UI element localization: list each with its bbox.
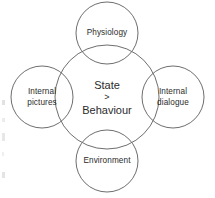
diagram-shapes: [0, 0, 215, 198]
node-circle-environment: [76, 130, 138, 192]
node-circle-internal-pictures: [11, 66, 73, 128]
node-circle-physiology: [76, 2, 138, 64]
node-circle-internal-dialogue: [142, 66, 204, 128]
diagram-canvas: State > Behaviour Physiology Internal di…: [0, 0, 215, 198]
